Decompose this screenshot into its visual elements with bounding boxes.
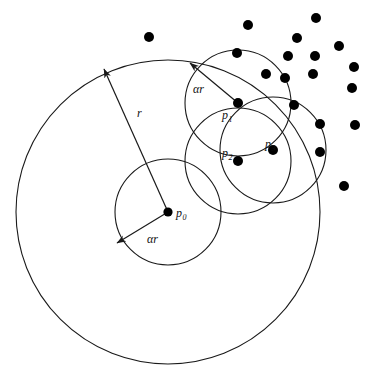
labeled-point-p2 <box>233 156 243 166</box>
labeled-point-p1 <box>233 98 243 108</box>
scatter-point <box>292 33 302 43</box>
label-alpha-r-p1: αr <box>193 82 204 96</box>
scatter-point <box>347 83 357 93</box>
scatter-point <box>232 48 242 58</box>
scatter-point <box>289 100 299 110</box>
scatter-point <box>339 181 349 191</box>
scatter-point <box>315 119 325 129</box>
labeled-point-p0 <box>163 207 172 216</box>
scatter-point <box>261 69 271 79</box>
scatter-point <box>311 13 321 23</box>
scatter-point <box>349 62 359 72</box>
diagram-canvas: p0p1p2p3rαrαr <box>0 0 374 384</box>
scatter-point <box>308 69 318 79</box>
scatter-point <box>283 51 293 61</box>
scatter-point <box>315 147 325 157</box>
scatter-point <box>350 120 360 130</box>
scatter-point <box>144 32 154 42</box>
scatter-point <box>280 73 290 83</box>
geometric-diagram-svg: p0p1p2p3rαrαr <box>0 0 374 384</box>
scatter-point <box>310 51 320 61</box>
scatter-point <box>334 41 344 51</box>
label-r: r <box>137 106 142 120</box>
scatter-point <box>243 20 253 30</box>
label-alpha-r-center: αr <box>147 232 158 246</box>
